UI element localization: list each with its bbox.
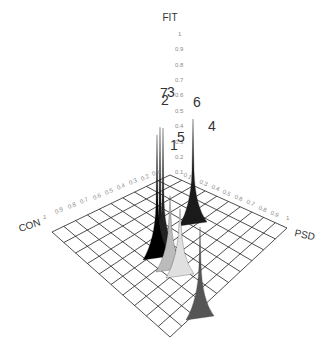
peak-label-1: 1: [170, 137, 178, 153]
3d-fitness-landscape-chart: FIT 1 0.9 0.8 0.7 0.6 0.5 0.4 0.3 0.2 0.…: [0, 0, 332, 351]
fit-tick: 0.5: [175, 108, 184, 114]
fit-tick: 0.7: [175, 77, 184, 83]
con-axis-title: CON: [17, 217, 42, 234]
con-axis: CON 1 0.9 0.8 0.7 0.6 0.5 0.4 0.3 0.2 0.…: [17, 168, 161, 234]
psd-tick: 0.3: [199, 178, 210, 187]
peak-label-6: 6: [193, 94, 201, 110]
con-tick: 0.8: [67, 201, 78, 210]
psd-tick: 0.4: [211, 183, 222, 192]
con-tick: 0.7: [79, 196, 90, 205]
con-tick: 0.6: [92, 192, 103, 201]
fit-axis-title: FIT: [163, 12, 178, 23]
con-tick: 0.5: [104, 187, 115, 196]
con-tick: 0.2: [140, 173, 151, 182]
peak-label-5: 5: [177, 129, 185, 145]
psd-tick: 0.8: [258, 204, 269, 213]
fit-tick: 0.2: [175, 154, 184, 160]
peak-label-2: 2: [161, 92, 169, 108]
grid-line: [170, 228, 287, 337]
psd-tick: 1: [286, 215, 290, 221]
con-tick: 0.4: [116, 182, 127, 191]
peak-labels: 7 3 2 6 4 5 1: [160, 84, 216, 153]
con-tick: 0.3: [128, 177, 139, 186]
psd-axis-title: PSD: [294, 227, 316, 242]
con-tick: 1: [43, 214, 47, 220]
fit-tick: 1: [178, 31, 182, 37]
peak-label-4: 4: [208, 118, 216, 134]
fit-tick: 0.1: [175, 169, 184, 175]
fit-tick: 0.8: [175, 62, 184, 68]
psd-tick: 0.6: [234, 193, 245, 202]
fit-tick: 0.6: [175, 92, 184, 98]
psd-tick: 0.9: [270, 209, 281, 218]
con-tick: 0.9: [54, 206, 65, 215]
psd-tick: 0.5: [222, 188, 233, 197]
psd-tick: 0.7: [246, 198, 257, 207]
fit-tick: 0.9: [175, 46, 184, 52]
